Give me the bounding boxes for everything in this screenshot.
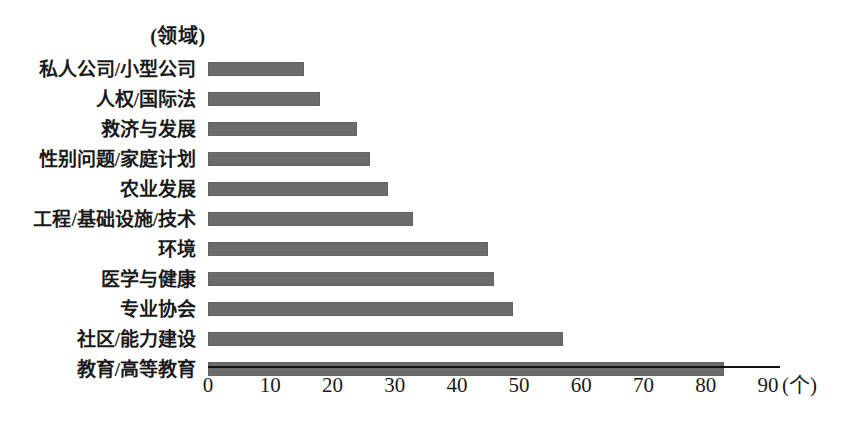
category-label: 救济与发展	[0, 114, 202, 144]
bar	[208, 272, 494, 286]
bar-row: 工程/基础设施/技术	[0, 204, 846, 234]
value-axis-line	[208, 366, 780, 368]
category-label: 专业协会	[0, 294, 202, 324]
bar-row: 环境	[0, 234, 846, 264]
value-axis-ticks: 0102030405060708090	[0, 374, 846, 408]
category-label: 社区/能力建设	[0, 324, 202, 354]
x-tick-label: 60	[571, 374, 592, 397]
bar-row: 私人公司/小型公司	[0, 54, 846, 84]
bar	[208, 62, 304, 76]
category-axis-title: (领域)	[108, 20, 248, 49]
x-tick-label: 10	[260, 374, 281, 397]
bar	[208, 302, 513, 316]
bar	[208, 122, 357, 136]
category-label: 私人公司/小型公司	[0, 54, 202, 84]
bar-row: 农业发展	[0, 174, 846, 204]
x-tick-label: 40	[446, 374, 467, 397]
bar-row: 社区/能力建设	[0, 324, 846, 354]
value-axis-unit-label: (个)	[782, 374, 817, 397]
bar	[208, 152, 370, 166]
bar	[208, 212, 413, 226]
bar	[208, 92, 320, 106]
category-label: 工程/基础设施/技术	[0, 204, 202, 234]
x-tick-label: 20	[322, 374, 343, 397]
x-tick-label: 70	[633, 374, 654, 397]
bar-row: 性别问题/家庭计划	[0, 144, 846, 174]
category-label: 医学与健康	[0, 264, 202, 294]
x-tick-label: 90	[758, 374, 779, 397]
category-label: 性别问题/家庭计划	[0, 144, 202, 174]
x-tick-label: 50	[509, 374, 530, 397]
bar-row: 医学与健康	[0, 264, 846, 294]
category-label: 人权/国际法	[0, 84, 202, 114]
bar-row: 专业协会	[0, 294, 846, 324]
bar	[208, 332, 563, 346]
bar-row: 人权/国际法	[0, 84, 846, 114]
bar-chart: (领域) 私人公司/小型公司人权/国际法救济与发展性别问题/家庭计划农业发展工程…	[0, 0, 846, 430]
bar-row: 救济与发展	[0, 114, 846, 144]
category-label: 环境	[0, 234, 202, 264]
x-tick-label: 30	[384, 374, 405, 397]
bar	[208, 182, 388, 196]
plot-area: 私人公司/小型公司人权/国际法救济与发展性别问题/家庭计划农业发展工程/基础设施…	[0, 52, 846, 372]
category-label: 农业发展	[0, 174, 202, 204]
x-tick-label: 80	[695, 374, 716, 397]
bar	[208, 242, 488, 256]
x-tick-label: 0	[203, 374, 214, 397]
